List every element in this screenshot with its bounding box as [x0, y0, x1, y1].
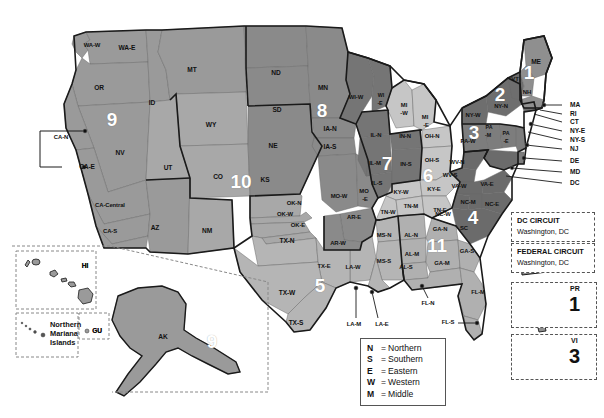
- district-label-IL-S: IL-S: [372, 181, 383, 187]
- northern-mariana-islands-label: Northern Mariana Islands: [12, 320, 81, 347]
- district-label-TX-S: TX-S: [289, 320, 304, 327]
- circuit-number-5: 5: [315, 276, 326, 295]
- abbreviation-row: S=Southern: [367, 354, 423, 365]
- abbreviation-equals: =: [379, 354, 388, 365]
- district-label-AK: AK: [158, 334, 167, 341]
- puerto-rico-abbr: PR: [570, 285, 580, 292]
- district-label-CA-N: CA-N: [54, 135, 68, 141]
- abbreviation-row: W=Western: [367, 377, 423, 388]
- dc-circuit-title: DC CIRCUIT: [517, 216, 589, 225]
- district-label-MO-W: MO-W: [331, 194, 348, 200]
- region-WV-N: [462, 150, 488, 170]
- district-label-IN-N: IN-N: [399, 134, 411, 140]
- district-label-GA-M: GA-M: [434, 261, 449, 267]
- federal-circuit-legend: FEDERAL CIRCUIT Washington, DC: [511, 243, 595, 273]
- district-label-AR-E: AR-E: [347, 215, 361, 221]
- ca-n-dot: [83, 129, 87, 133]
- district-label-VA-W: VA-W: [452, 184, 467, 190]
- puerto-rico-circuit-number: 1: [569, 294, 580, 314]
- district-label-MI: MI: [422, 115, 428, 121]
- district-label-NM: NM: [202, 228, 212, 235]
- dc-circuit-legend: DC CIRCUIT Washington, DC: [511, 212, 595, 242]
- district-label-KY-E: KY-E: [427, 187, 440, 193]
- coastal-label-MA: MA: [570, 102, 580, 109]
- district-label-WA-E: WA-E: [119, 45, 136, 52]
- district-label-CA-S: CA-S: [103, 229, 117, 235]
- abbreviation-equals: =: [379, 366, 388, 377]
- district-label-TX-W: TX-W: [279, 290, 295, 297]
- district-label-VT: VT: [511, 77, 518, 83]
- abbreviation-key: S: [367, 354, 379, 365]
- district-label-NY-W: NY-W: [466, 113, 481, 119]
- district-label-UT: UT: [164, 165, 173, 172]
- district-label--E: -E: [377, 101, 382, 106]
- district-label-GA-S: GA-S: [460, 249, 474, 255]
- district-label-WV-N: WV-N: [450, 160, 465, 166]
- virgin-islands-circuit-number: 3: [569, 346, 580, 366]
- coastal-label-MD: MD: [570, 169, 580, 176]
- district-label-AL-M: AL-M: [405, 252, 419, 258]
- abbreviation-value: Western: [388, 377, 423, 388]
- district-label-WI-W: WI-W: [349, 95, 363, 101]
- abbreviation-value: Eastern: [388, 366, 423, 377]
- district-label-MS-S: MS-S: [377, 259, 391, 265]
- district-label-PA: PA: [486, 125, 493, 130]
- district-label-NC-W: NC-W: [435, 212, 451, 218]
- coastal-label-NY-S: NY-S: [570, 137, 585, 144]
- district-label-WA-W: WA-W: [84, 43, 101, 49]
- district-label-NC-E: NC-E: [485, 202, 499, 208]
- circuit-number-1: 1: [524, 63, 535, 82]
- district-label-AL-N: AL-N: [404, 233, 418, 239]
- district-label-OH-N: OH-N: [425, 134, 440, 140]
- district-label-OK-W: OK-W: [277, 212, 293, 218]
- abbreviation-value: Southern: [388, 354, 423, 365]
- abbreviation-key: M: [367, 389, 379, 400]
- district-label-PA: PA: [503, 131, 510, 136]
- district-label-IL-N: IL-N: [370, 133, 381, 139]
- federal-circuit-title: FEDERAL CIRCUIT: [517, 247, 589, 256]
- region-MN: [306, 26, 350, 118]
- virgin-islands-legend: [511, 334, 597, 380]
- district-label--M: -M: [485, 133, 491, 138]
- circuit-number-8: 8: [317, 101, 328, 120]
- abbreviation-equals: =: [379, 377, 388, 388]
- district-label-TN-M: TN-M: [404, 204, 418, 210]
- circuit-number-9: 9: [207, 332, 218, 351]
- district-label-OK-N: OK-N: [287, 201, 302, 207]
- district-label-SD: SD: [273, 107, 282, 114]
- district-label-GA-N: GA-N: [433, 227, 448, 233]
- region-WY: [176, 92, 248, 146]
- district-label-NE: NE: [269, 143, 278, 150]
- virgin-islands-abbr: VI: [571, 337, 578, 344]
- district-label-CA-Central: CA-Central: [95, 203, 125, 209]
- district-label-FL-N: FL-N: [421, 301, 434, 307]
- district-label-MS-N: MS-N: [377, 233, 392, 239]
- abbreviation-equals: =: [379, 343, 388, 354]
- district-label-TX-N: TX-N: [280, 238, 295, 245]
- district-label-MI: MI: [401, 103, 407, 109]
- dc-circuit-location: Washington, DC: [517, 227, 589, 236]
- district-label-ME: ME: [531, 59, 541, 66]
- district-label-TN-W: TN-W: [381, 210, 396, 216]
- abbreviation-key: N: [367, 343, 379, 354]
- coastal-label-DC: DC: [570, 180, 579, 187]
- circuit-number-7: 7: [382, 154, 393, 173]
- coastal-label-NY-E: NY-E: [570, 128, 585, 135]
- district-label--E: -E: [503, 139, 508, 144]
- abbreviation-row: E=Eastern: [367, 366, 423, 377]
- federal-circuit-location: Washington, DC: [517, 258, 589, 267]
- puerto-rico-legend: [511, 282, 597, 328]
- circuit-number-2: 2: [495, 85, 506, 104]
- circuit-number-10: 10: [230, 172, 251, 191]
- district-label-AR-W: AR-W: [330, 241, 346, 247]
- district-label-KS: KS: [261, 177, 270, 184]
- district-label-KY-W: KY-W: [394, 190, 409, 196]
- district-label-OH-S: OH-S: [425, 158, 439, 164]
- district-label-FL-S: FL-S: [442, 320, 455, 326]
- district-label--W: -W: [400, 111, 407, 117]
- district-label-AZ: AZ: [151, 225, 160, 232]
- district-label-ND: ND: [271, 70, 280, 77]
- coastal-label-CT: CT: [570, 119, 579, 126]
- hawaii-label: HI: [82, 263, 88, 270]
- circuit-number-9: 9: [107, 110, 118, 129]
